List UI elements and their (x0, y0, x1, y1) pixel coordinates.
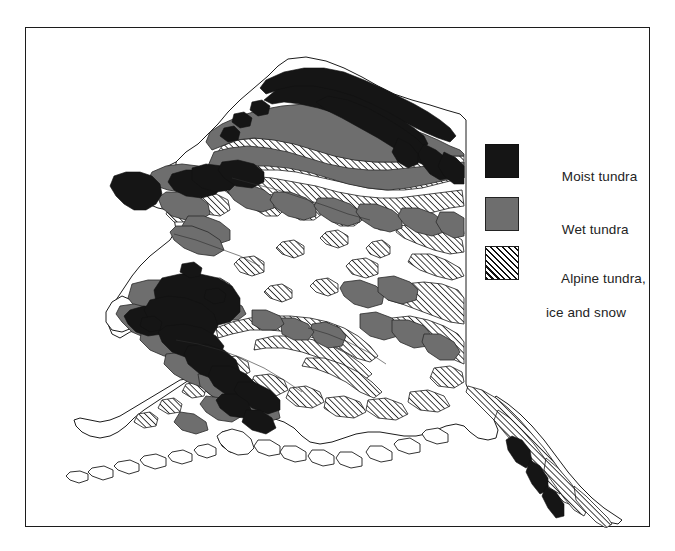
legend-entry-moist-tundra: Moist tundra (485, 144, 637, 202)
legend-label-alpine-tundra: Alpine tundra, ice and snow (531, 246, 646, 355)
legend-swatch-moist-tundra (485, 144, 519, 178)
aleutian-chain (66, 428, 448, 483)
figure-frame: Moist tundra Wet tundra Alpine tundra, i… (25, 27, 650, 527)
legend-swatch-wet-tundra (485, 197, 519, 231)
legend-swatch-alpine-tundra (485, 246, 519, 280)
legend-label-alpine-tundra-line-2: ice and snow (531, 304, 646, 321)
legend-label-alpine-tundra-line-1: Alpine tundra, (561, 271, 646, 286)
legend-label-wet-tundra-line-1: Wet tundra (562, 222, 629, 237)
legend-label-moist-tundra-line-1: Moist tundra (562, 169, 637, 184)
legend-entry-alpine-tundra: Alpine tundra, ice and snow (485, 246, 646, 355)
legend-label-moist-tundra: Moist tundra (531, 144, 637, 202)
